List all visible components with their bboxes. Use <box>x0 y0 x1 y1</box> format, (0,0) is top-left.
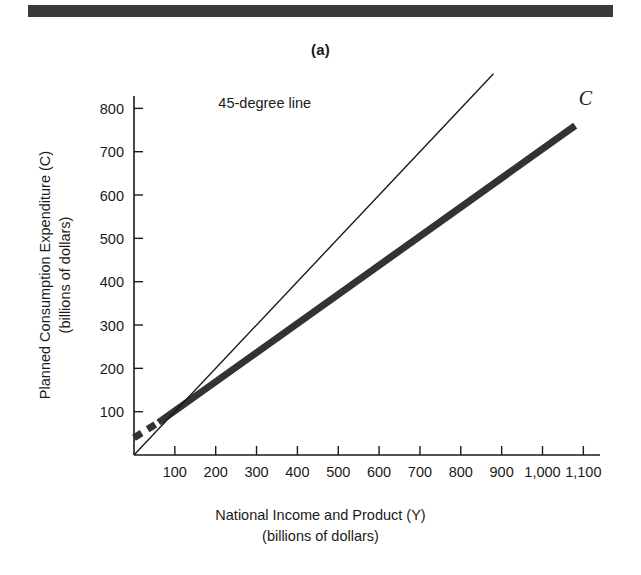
x-tick-label: 1,100 <box>565 464 601 480</box>
chart-plot-area: 100200300400500600700800 100200300400500… <box>0 0 641 575</box>
series-line-45-degree <box>134 74 493 455</box>
y-axis-ticks: 100200300400500600700800 <box>100 101 143 420</box>
y-tick-label: 100 <box>100 404 124 420</box>
y-tick-label: 600 <box>100 188 124 204</box>
x-tick-label: 900 <box>490 464 514 480</box>
x-tick-label: 200 <box>204 464 228 480</box>
x-tick-label: 700 <box>408 464 432 480</box>
x-tick-label: 500 <box>326 464 350 480</box>
x-tick-label: 100 <box>163 464 187 480</box>
y-tick-label: 400 <box>100 274 124 290</box>
x-tick-label: 600 <box>367 464 391 480</box>
y-tick-label: 500 <box>100 231 124 247</box>
y-tick-label: 200 <box>100 361 124 377</box>
x-tick-label: 1,000 <box>524 464 560 480</box>
y-tick-label: 800 <box>100 101 124 117</box>
x-axis-ticks: 1002003004005006007008009001,0001,100 <box>163 446 602 480</box>
y-tick-label: 300 <box>100 318 124 334</box>
series-line-c-dashed <box>134 423 159 438</box>
y-tick-label: 700 <box>100 144 124 160</box>
x-tick-label: 800 <box>449 464 473 480</box>
x-tick-label: 300 <box>244 464 268 480</box>
series-label-c: C <box>579 87 593 109</box>
series-line-c <box>159 126 576 423</box>
x-tick-label: 400 <box>285 464 309 480</box>
annotation-45-degree-line: 45-degree line <box>218 95 311 111</box>
chart-annotation-layer: 45-degree lineC <box>218 87 592 111</box>
chart-series-layer <box>134 74 575 455</box>
